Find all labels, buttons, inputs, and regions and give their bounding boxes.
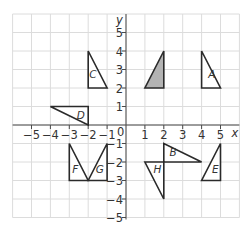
x-tick-label: −3 — [61, 128, 78, 142]
y-tick-label: −3 — [106, 174, 123, 188]
y-tick-label: −4 — [106, 193, 123, 207]
triangle-g-label: G — [96, 163, 104, 175]
x-tick-label: −4 — [42, 128, 59, 142]
x-tick-label: 1 — [141, 128, 148, 142]
axes — [13, 14, 240, 220]
x-tick-label: 5 — [217, 128, 224, 142]
triangle-h-label: H — [153, 163, 161, 175]
tick-labels: −5−4−3−2−112345−5−4−3−2−1123450xy — [23, 13, 238, 225]
coordinate-plane: ABCDEFGH −5−4−3−2−112345−5−4−3−2−1123450… — [0, 0, 248, 232]
origin-label: 0 — [117, 125, 124, 139]
triangle-f-label: F — [72, 163, 79, 175]
triangle-a-label: A — [207, 68, 215, 80]
x-tick-label: 4 — [198, 128, 205, 142]
triangle-b-label: B — [169, 146, 176, 158]
y-tick-label: 3 — [116, 63, 123, 77]
x-tick-label: 3 — [179, 128, 186, 142]
y-axis-label: y — [115, 13, 123, 27]
triangle-e-label: E — [212, 163, 219, 175]
y-tick-label: −1 — [106, 137, 123, 151]
y-tick-label: 2 — [116, 82, 123, 96]
y-tick-label: 1 — [116, 100, 123, 114]
y-tick-label: −2 — [106, 156, 123, 170]
x-tick-label: −5 — [23, 128, 40, 142]
x-tick-label: −2 — [80, 128, 97, 142]
y-tick-label: 4 — [116, 45, 123, 59]
y-tick-label: −5 — [106, 211, 123, 225]
triangle-d-label: D — [77, 109, 85, 121]
x-tick-label: 2 — [160, 128, 167, 142]
x-axis-label: x — [230, 126, 238, 140]
coordinate-plane-diagram: ABCDEFGH −5−4−3−2−112345−5−4−3−2−1123450… — [0, 0, 248, 232]
triangle-c-label: C — [89, 68, 97, 80]
y-tick-label: 5 — [116, 26, 123, 40]
